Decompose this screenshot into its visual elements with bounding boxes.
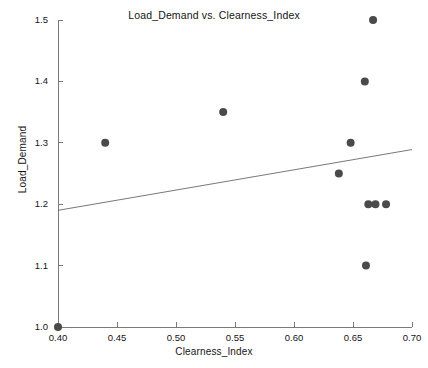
plot-area bbox=[0, 0, 428, 368]
y-axis-label: Load_Demand bbox=[17, 100, 28, 220]
x-tick-label: 0.60 bbox=[274, 332, 314, 343]
x-tick-label: 0.70 bbox=[392, 332, 428, 343]
y-tick-label: 1.1 bbox=[14, 260, 48, 271]
x-tick-label: 0.45 bbox=[97, 332, 137, 343]
data-point bbox=[347, 139, 355, 147]
data-point bbox=[371, 200, 379, 208]
y-tick-label: 1.4 bbox=[14, 75, 48, 86]
data-point bbox=[369, 16, 377, 24]
axes bbox=[58, 20, 412, 327]
regression-line bbox=[58, 150, 412, 211]
data-point bbox=[219, 108, 227, 116]
data-point bbox=[54, 323, 62, 331]
data-point bbox=[361, 77, 369, 85]
x-tick-label: 0.65 bbox=[333, 332, 373, 343]
x-tick-label: 0.40 bbox=[38, 332, 78, 343]
data-point bbox=[364, 200, 372, 208]
x-tick-label: 0.50 bbox=[156, 332, 196, 343]
y-tick-label: 1.5 bbox=[14, 14, 48, 25]
data-point bbox=[362, 262, 370, 270]
data-points bbox=[54, 16, 390, 331]
scatter-chart: Load_Demand vs. Clearness_Index 0.400.45… bbox=[0, 0, 428, 368]
trendline bbox=[58, 150, 412, 211]
data-point bbox=[335, 170, 343, 178]
x-tick-label: 0.55 bbox=[215, 332, 255, 343]
data-point bbox=[101, 139, 109, 147]
data-point bbox=[382, 200, 390, 208]
x-axis-label: Clearness_Index bbox=[0, 346, 428, 357]
y-tick-label: 1.0 bbox=[14, 321, 48, 332]
